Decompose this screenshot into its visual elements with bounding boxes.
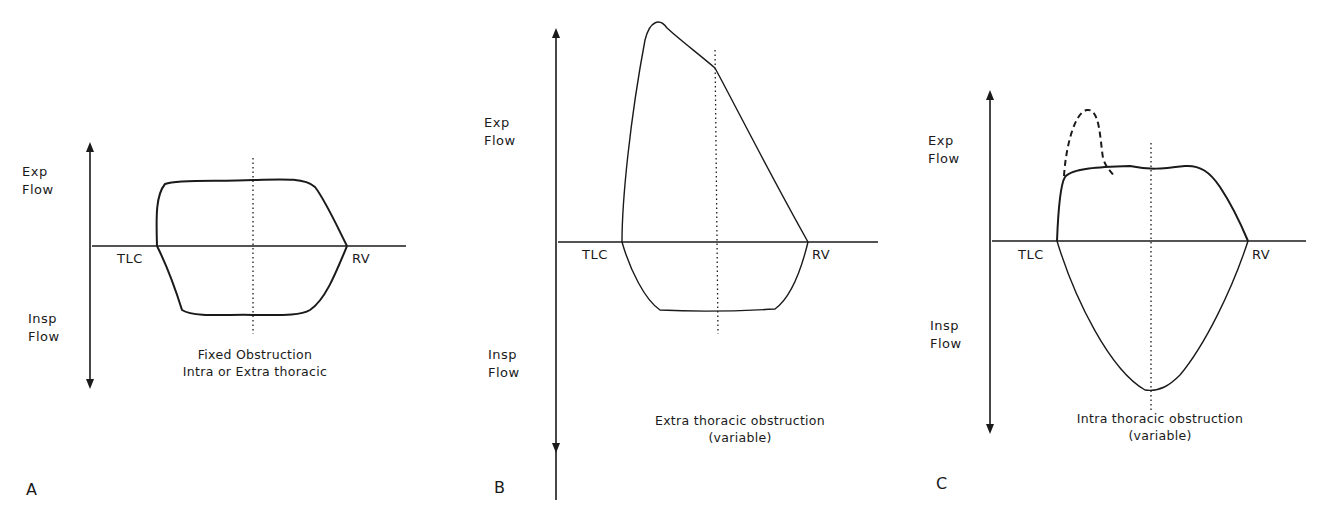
panel-b-caption: Extra thoracic obstruction(variable) xyxy=(620,412,860,446)
expiratory-curve xyxy=(157,179,347,246)
arrow-down-icon xyxy=(986,424,994,434)
panel-a-tlc-label: TLC xyxy=(117,250,143,268)
panel-b-insp-label: InspFlow xyxy=(488,346,520,382)
panel-b-tlc-label: TLC xyxy=(582,246,608,264)
inspiratory-curve xyxy=(157,246,347,315)
panel-b-exp-label: ExpFlow xyxy=(484,114,516,150)
panel-a-insp-label: InspFlow xyxy=(28,310,60,346)
panel-a-rv-label: RV xyxy=(352,250,370,268)
panel-c-rv-label: RV xyxy=(1252,246,1270,264)
inspiratory-curve xyxy=(1057,241,1248,390)
panel-c-exp-label: ExpFlow xyxy=(928,132,960,168)
panel-b-rv-label: RV xyxy=(812,246,830,264)
arrow-down-icon xyxy=(86,379,94,389)
inspiratory-curve xyxy=(622,242,808,311)
panel-c-caption: Intra thoracic obstruction(variable) xyxy=(1040,410,1280,444)
panel-a-letter: A xyxy=(26,480,37,499)
mid-volume-line xyxy=(715,50,718,334)
panel-c-tlc-label: TLC xyxy=(1018,246,1044,264)
arrow-up-icon xyxy=(552,28,560,38)
expiratory-curve xyxy=(1057,166,1248,241)
panel-b-letter: B xyxy=(494,478,505,497)
arrow-down-icon xyxy=(552,443,560,453)
arrow-up-icon xyxy=(986,90,994,100)
arrow-up-icon xyxy=(86,142,94,152)
panel-a-exp-label: ExpFlow xyxy=(22,163,54,199)
panel-c-insp-label: InspFlow xyxy=(930,317,962,353)
panel-c-letter: C xyxy=(936,474,947,493)
panel-a-caption: Fixed ObstructionIntra or Extra thoracic xyxy=(140,346,370,380)
